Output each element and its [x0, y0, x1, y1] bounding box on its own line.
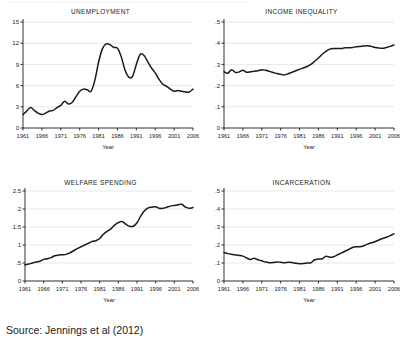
chart-plot-incarceration: 0.1.2.3.4.519611966197119761981198619911…: [201, 171, 402, 312]
svg-text:1981: 1981: [93, 286, 105, 292]
source-note: Source: Jennings et al (2012): [6, 324, 143, 336]
svg-text:12: 12: [12, 40, 19, 46]
svg-text:.5: .5: [215, 188, 221, 194]
svg-text:1971: 1971: [55, 133, 67, 139]
svg-text:2001: 2001: [168, 286, 180, 292]
svg-text:2.5: 2.5: [13, 188, 22, 194]
chart-plot-income-inequality: 0.1.2.3.4.519611966197119761981198619911…: [201, 0, 402, 171]
svg-text:1986: 1986: [312, 133, 324, 139]
svg-text:1986: 1986: [112, 286, 124, 292]
svg-text:1991: 1991: [130, 133, 142, 139]
svg-text:1991: 1991: [331, 286, 343, 292]
svg-text:3: 3: [16, 104, 20, 110]
svg-text:1966: 1966: [237, 286, 249, 292]
svg-text:1991: 1991: [331, 133, 343, 139]
svg-text:1986: 1986: [111, 133, 123, 139]
svg-text:2001: 2001: [369, 286, 381, 292]
svg-text:Year: Year: [103, 297, 115, 303]
svg-text:.3: .3: [215, 224, 221, 230]
svg-text:.4: .4: [215, 206, 221, 212]
svg-text:0: 0: [217, 278, 221, 284]
svg-text:15: 15: [12, 19, 19, 25]
svg-text:1966: 1966: [36, 133, 48, 139]
svg-text:1986: 1986: [312, 286, 324, 292]
svg-text:1981: 1981: [92, 133, 104, 139]
svg-text:1981: 1981: [293, 133, 305, 139]
chart-plot-unemployment: 0369121519611966197119761981198619911996…: [0, 0, 201, 171]
svg-text:1976: 1976: [75, 286, 87, 292]
chart-panel-incarceration: INCARCERATION 0.1.2.3.4.5196119661971197…: [201, 171, 402, 312]
svg-text:.5: .5: [16, 260, 22, 266]
svg-text:0: 0: [16, 125, 20, 131]
svg-text:2001: 2001: [168, 133, 180, 139]
svg-text:.4: .4: [215, 40, 221, 46]
chart-plot-welfare-spending: 0.511.522.519611966197119761981198619911…: [0, 171, 201, 312]
svg-text:.1: .1: [215, 104, 221, 110]
chart-panel-unemployment: UNEMPLOYMENT 036912151961196619711976198…: [0, 0, 201, 171]
svg-text:1961: 1961: [218, 286, 230, 292]
charts-grid: UNEMPLOYMENT 036912151961196619711976198…: [0, 0, 402, 312]
svg-text:6: 6: [16, 83, 20, 89]
svg-text:2001: 2001: [369, 133, 381, 139]
svg-text:1976: 1976: [73, 133, 85, 139]
svg-text:Year: Year: [303, 144, 315, 150]
svg-text:2: 2: [18, 206, 22, 212]
svg-text:1976: 1976: [274, 133, 286, 139]
chart-panel-welfare-spending: WELFARE SPENDING 0.511.522.5196119661971…: [0, 171, 201, 312]
svg-text:1996: 1996: [350, 286, 362, 292]
svg-text:0: 0: [217, 125, 221, 131]
svg-text:1971: 1971: [256, 286, 268, 292]
svg-text:0: 0: [18, 278, 22, 284]
svg-text:1966: 1966: [237, 133, 249, 139]
svg-text:1966: 1966: [37, 286, 49, 292]
svg-text:1976: 1976: [274, 286, 286, 292]
svg-text:1961: 1961: [218, 133, 230, 139]
chart-panel-income-inequality: INCOME INEQUALITY 0.1.2.3.4.519611966197…: [201, 0, 402, 171]
svg-text:.2: .2: [215, 83, 221, 89]
svg-text:1961: 1961: [19, 286, 31, 292]
svg-text:1996: 1996: [149, 133, 161, 139]
svg-text:.5: .5: [215, 19, 221, 25]
svg-text:1: 1: [18, 242, 22, 248]
svg-text:1.5: 1.5: [13, 224, 22, 230]
svg-text:1971: 1971: [56, 286, 68, 292]
svg-text:2006: 2006: [187, 286, 199, 292]
svg-text:1961: 1961: [17, 133, 29, 139]
svg-text:1981: 1981: [293, 286, 305, 292]
svg-text:.3: .3: [215, 62, 221, 68]
svg-text:Year: Year: [102, 144, 114, 150]
svg-text:1996: 1996: [149, 286, 161, 292]
svg-text:2006: 2006: [388, 133, 400, 139]
svg-text:Year: Year: [303, 297, 315, 303]
svg-text:2006: 2006: [187, 133, 199, 139]
svg-text:1991: 1991: [131, 286, 143, 292]
svg-text:2006: 2006: [388, 286, 400, 292]
svg-text:.1: .1: [215, 260, 221, 266]
svg-text:1996: 1996: [350, 133, 362, 139]
svg-text:9: 9: [16, 62, 20, 68]
svg-text:.2: .2: [215, 242, 221, 248]
svg-text:1971: 1971: [256, 133, 268, 139]
